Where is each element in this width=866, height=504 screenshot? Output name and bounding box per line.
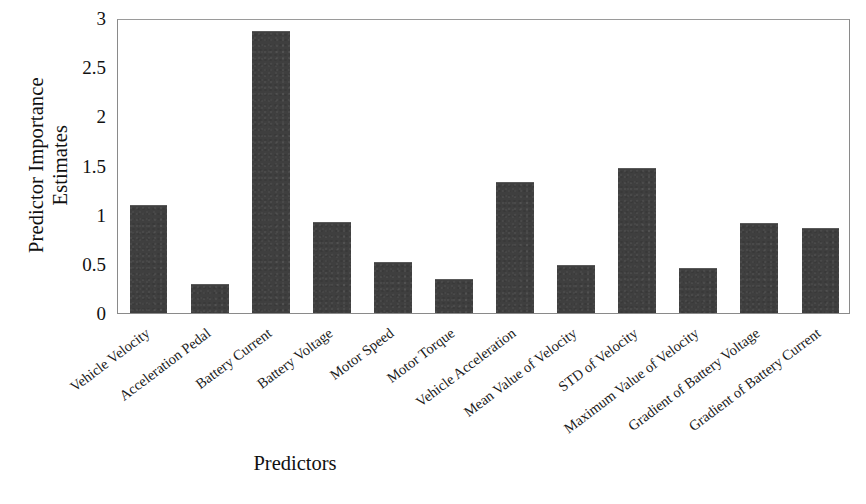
bar [435, 279, 473, 313]
y-axis-tick-label: 2 [54, 106, 106, 128]
x-axis-title: Predictors [205, 452, 385, 475]
bar [679, 268, 717, 313]
bar [802, 228, 840, 313]
y-axis-tick-label: 2.5 [54, 57, 106, 79]
y-axis-tick-label: 0 [54, 303, 106, 325]
y-axis-tick-label: 0.5 [54, 254, 106, 276]
bar [252, 31, 290, 313]
bar [191, 284, 229, 313]
y-axis-tick-label: 3 [54, 8, 106, 30]
predictor-importance-bar-chart: Predictor Importance Estimates 00.511.52… [0, 0, 866, 504]
y-axis-tick-label: 1.5 [54, 156, 106, 178]
bar [313, 222, 351, 313]
bar [618, 168, 656, 313]
plot-area [117, 19, 850, 314]
y-axis-title-line-1: Predictor Importance [25, 77, 47, 253]
bar [740, 223, 778, 313]
y-axis-tick-label: 1 [54, 205, 106, 227]
bar [496, 182, 534, 313]
bar [130, 205, 168, 313]
bar [374, 262, 412, 313]
bar [557, 265, 595, 313]
